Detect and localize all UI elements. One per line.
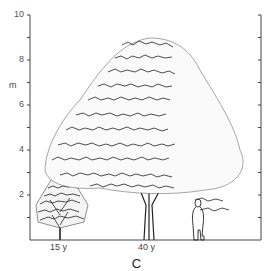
x-label-15-years: 15 y (50, 243, 67, 252)
y-axis-unit-label: m (9, 81, 17, 90)
y-axis-right (258, 15, 261, 240)
y-tick-label-2: 2 (10, 190, 24, 199)
y-tick-label-6: 6 (10, 100, 24, 109)
figure-caption: C (0, 256, 279, 271)
y-tick-label-4: 4 (10, 145, 24, 154)
y-axis-left (27, 15, 30, 240)
x-label-40-years: 40 y (138, 243, 155, 252)
y-tick-label-10: 10 (10, 10, 24, 19)
y-tick-label-8: 8 (10, 55, 24, 64)
human-figure (192, 199, 204, 240)
